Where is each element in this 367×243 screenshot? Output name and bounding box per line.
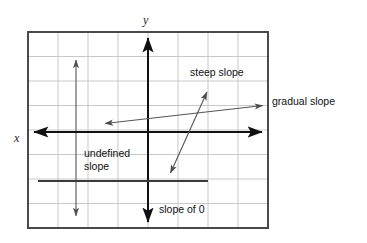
slope-diagram: x y steep slope gradual slope undefined … bbox=[0, 0, 367, 243]
slope-figure-svg: x y steep slope gradual slope undefined … bbox=[0, 0, 367, 243]
undefined-slope-label-line1: undefined bbox=[84, 147, 130, 159]
undefined-slope-label-line2: slope bbox=[84, 160, 109, 172]
gradual-slope-label: gradual slope bbox=[272, 95, 335, 107]
steep-slope-label: steep slope bbox=[190, 66, 244, 78]
zero-slope-label: slope of 0 bbox=[159, 203, 205, 215]
x-axis-label: x bbox=[13, 131, 20, 145]
y-axis-label: y bbox=[142, 13, 149, 27]
